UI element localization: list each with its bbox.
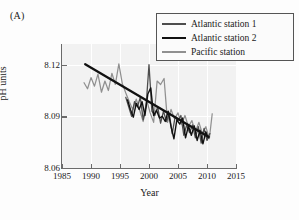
legend-label: Atlantic station 1 [191,17,256,31]
legend-label: Pacific station [191,45,245,59]
trend-line [85,64,209,137]
legend: Atlantic station 1Atlantic station 2Paci… [156,13,294,61]
legend-swatch-icon [162,37,186,39]
legend-item: Atlantic station 1 [162,17,288,31]
legend-swatch-icon [162,23,186,25]
legend-label: Atlantic station 2 [191,31,256,45]
x-axis-label: Year [0,187,299,198]
legend-swatch-icon [162,51,186,53]
legend-item: Pacific station [162,45,288,59]
y-axis-label: pH units [0,66,8,100]
figure-panel-a: (A) 19851990199520002005201020158.128.09… [0,0,299,220]
legend-item: Atlantic station 2 [162,31,288,45]
